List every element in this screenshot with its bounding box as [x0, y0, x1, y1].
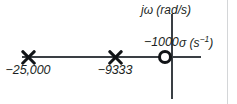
zero-marker-1000 [158, 50, 172, 64]
real-axis-label-base: σ (s [179, 36, 200, 50]
real-axis-label-close: ) [209, 36, 213, 50]
pole-label-25000: −25,000 [6, 64, 51, 77]
real-axis-label-exponent: −1 [200, 34, 210, 44]
zero-label-1000: −1000 [144, 36, 179, 49]
s-plane-pole-zero-figure: jω (rad/s) σ (s−1) −25,000 −9333 −1000 [0, 0, 237, 104]
real-axis-label: σ (s−1) [179, 37, 213, 49]
imaginary-axis-label: jω (rad/s) [141, 4, 191, 16]
pole-label-9333: −9333 [98, 64, 133, 77]
page-margin-rule [227, 0, 228, 104]
